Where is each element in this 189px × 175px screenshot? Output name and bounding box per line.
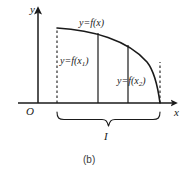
ordinate-x1-label-prefix: y=f(x [60,55,82,66]
interval-label: I [104,131,108,142]
y-axis-label: y [30,4,35,15]
figure-container: y x O y=f(x) y=f(x1) y=f(x2) I (b) [0,0,189,175]
ordinate-x1-label-suffix: ) [85,55,88,66]
interval-brace [57,112,160,126]
curve-function-label: y=f(x) [79,18,104,28]
origin-label: O [26,106,34,117]
figure-caption: (b) [83,155,95,165]
ordinate-x2-label: y=f(x2) [117,76,146,88]
ordinate-x2-label-prefix: y=f(x [117,75,139,86]
ordinate-x1-label: y=f(x1) [60,56,89,68]
x-axis-label: x [174,107,179,118]
ordinate-x2-label-suffix: ) [142,75,145,86]
